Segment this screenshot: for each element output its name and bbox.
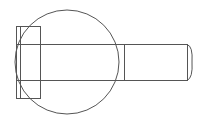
drawing-canvas bbox=[0, 0, 206, 126]
bolt-drawing bbox=[0, 0, 206, 126]
